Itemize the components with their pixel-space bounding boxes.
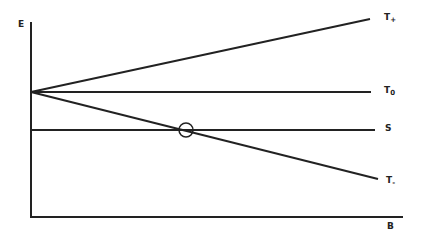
label-t-zero: T0 xyxy=(384,85,395,97)
label-t-minus: T- xyxy=(386,175,395,187)
label-t-plus: T+ xyxy=(384,12,396,24)
energy-diagram xyxy=(0,0,422,239)
line-t-minus xyxy=(31,92,378,179)
label-t-zero-sub: 0 xyxy=(390,89,395,97)
label-t-plus-sub: + xyxy=(390,16,396,24)
label-t-minus-sub: - xyxy=(392,179,395,187)
label-s-main: S xyxy=(385,123,391,133)
line-t-plus xyxy=(31,19,370,92)
label-s: S xyxy=(385,123,391,133)
y-axis-label: E xyxy=(18,19,24,29)
x-axis-label: B xyxy=(387,221,394,231)
